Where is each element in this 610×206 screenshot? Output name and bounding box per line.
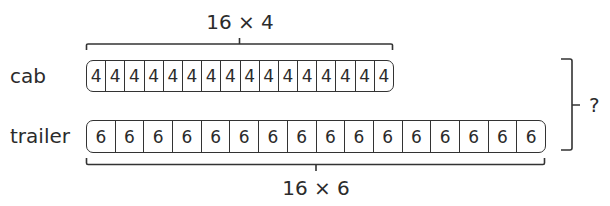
bar-cell: 4 <box>335 61 354 91</box>
bar-cell: 6 <box>229 121 258 152</box>
bar-cell: 4 <box>278 61 297 91</box>
trailer-brace <box>87 158 545 171</box>
bar-cell: 6 <box>344 121 373 152</box>
bar-cell: 4 <box>105 61 124 91</box>
bar-cell: 4 <box>374 61 393 91</box>
bar-cell: 4 <box>355 61 374 91</box>
bar-cell: 4 <box>240 61 259 91</box>
row-label-cab: cab <box>10 66 46 86</box>
bar-cell: 4 <box>316 61 335 91</box>
bar-cell: 6 <box>115 121 144 152</box>
bar-cell: 4 <box>144 61 163 91</box>
bar-cell: 6 <box>316 121 345 152</box>
bar-cell: 6 <box>258 121 287 152</box>
bar-cell: 4 <box>182 61 201 91</box>
bar-cell: 4 <box>163 61 182 91</box>
total-unknown-label: ? <box>589 93 600 117</box>
bar-cell: 6 <box>172 121 201 152</box>
trailer-brace-label: 16 × 6 <box>266 176 366 200</box>
bar-cell: 6 <box>287 121 316 152</box>
row-label-trailer: trailer <box>10 126 70 146</box>
bar-cell: 6 <box>87 121 115 152</box>
bar-cell: 4 <box>87 61 105 91</box>
bar-cell: 4 <box>259 61 278 91</box>
total-bracket <box>561 59 580 150</box>
cab-brace-label: 16 × 4 <box>190 10 290 34</box>
cab-brace <box>87 38 393 50</box>
bar-cell: 4 <box>220 61 239 91</box>
bar-cell: 6 <box>373 121 402 152</box>
bar-cell: 6 <box>459 121 488 152</box>
bar-cell: 6 <box>488 121 517 152</box>
bar-cell: 4 <box>297 61 316 91</box>
bar-cell: 6 <box>430 121 459 152</box>
cab-bar: 4444444444444444 <box>86 60 394 92</box>
bar-cell: 6 <box>201 121 230 152</box>
trailer-bar: 6666666666666666 <box>86 120 546 153</box>
bar-cell: 4 <box>124 61 143 91</box>
bar-cell: 6 <box>516 121 545 152</box>
bar-cell: 6 <box>143 121 172 152</box>
bar-cell: 6 <box>402 121 431 152</box>
bar-cell: 4 <box>201 61 220 91</box>
